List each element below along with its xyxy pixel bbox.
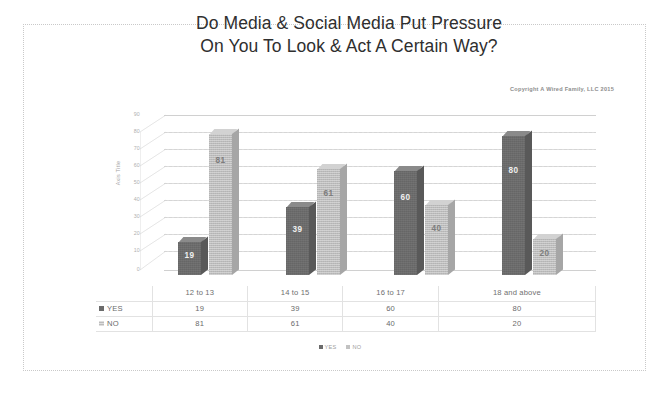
bar-side-face [340, 164, 347, 275]
table-cell-no-2: 40 [343, 316, 438, 331]
table-row-header-no: NO [96, 316, 152, 331]
legend-label-yes: YES [325, 344, 337, 350]
table-row: YES 19 39 60 80 [96, 301, 596, 316]
y-tick-30: 30 [114, 214, 140, 219]
chart-title-line-1: Do Media & Social Media Put Pressure [196, 13, 502, 33]
chart-title: Do Media & Social Media Put Pressure On … [0, 12, 670, 58]
table-col-header-0: 12 to 13 [152, 286, 247, 301]
bar-value-label: 60 [394, 193, 417, 202]
y-axis-tick-labels: 90 80 70 60 50 40 30 20 10 0 [114, 103, 140, 289]
bar-value-label: 61 [317, 189, 340, 198]
bar-front-face [286, 207, 309, 275]
bar-side-face [556, 234, 563, 275]
bar-side-face [201, 237, 208, 275]
legend-label-no: NO [352, 344, 361, 350]
table-row-label: YES [107, 304, 123, 313]
table-header-row: 12 to 13 14 to 15 16 to 17 18 and above [96, 286, 596, 301]
bar-side-face [232, 129, 239, 275]
bar-no-18-and-above[interactable]: 20 [533, 239, 556, 275]
y-tick-10: 10 [114, 248, 140, 253]
table-row-label: NO [107, 319, 119, 328]
legend-item-yes[interactable]: YES [319, 344, 337, 350]
table-cell-no-0: 81 [152, 316, 247, 331]
bar-value-label: 40 [425, 224, 448, 233]
bar-yes-16-to-17[interactable]: 60 [394, 171, 417, 275]
table-row: NO 81 61 40 20 [96, 316, 596, 331]
table-col-header-3: 18 and above [438, 286, 595, 301]
table-row-header-yes: YES [96, 301, 152, 316]
bar-group-12-to-13: 19 81 [178, 115, 283, 275]
copyright-notice: Copyright A Wired Family, LLC 2015 [510, 86, 614, 92]
bar-no-16-to-17[interactable]: 40 [425, 205, 448, 275]
chart-data-table: 12 to 13 14 to 15 16 to 17 18 and above … [96, 286, 596, 332]
bar-front-face [317, 169, 340, 275]
table-cell-no-1: 61 [247, 316, 342, 331]
y-tick-40: 40 [114, 197, 140, 202]
bar-front-face [394, 171, 417, 275]
legend-swatch-yes-icon [319, 345, 323, 349]
table-cell-yes-1: 39 [247, 301, 342, 316]
legend-item-no[interactable]: NO [346, 344, 361, 350]
y-tick-80: 80 [114, 129, 140, 134]
table-cell-yes-3: 80 [438, 301, 595, 316]
y-tick-70: 70 [114, 146, 140, 151]
legend-swatch-no-icon [346, 345, 350, 349]
bar-yes-14-to-15[interactable]: 39 [286, 207, 309, 275]
bar-group-18-and-above: 80 20 [502, 115, 607, 275]
y-tick-50: 50 [114, 180, 140, 185]
bar-no-12-to-13[interactable]: 81 [209, 134, 232, 275]
series-marker-yes-icon [99, 306, 104, 311]
chart-title-line-2: On You To Look & Act A Certain Way? [200, 36, 497, 56]
bar-side-face [309, 202, 316, 275]
chart-plot-region: Axis Title 90 80 70 60 50 40 30 20 10 0 [96, 103, 596, 289]
y-tick-60: 60 [114, 163, 140, 168]
chart-legend: YES NO [0, 344, 670, 350]
bar-yes-12-to-13[interactable]: 19 [178, 242, 201, 275]
bar-no-14-to-15[interactable]: 61 [317, 169, 340, 275]
bar-group-14-to-15: 39 61 [286, 115, 391, 275]
table-cell-yes-0: 19 [152, 301, 247, 316]
table-col-header-1: 14 to 15 [247, 286, 342, 301]
table-corner-cell [96, 286, 152, 301]
chart-bars-layer: 19 81 39 61 [164, 115, 596, 275]
bar-value-label: 20 [533, 249, 556, 258]
table-col-header-2: 16 to 17 [343, 286, 438, 301]
y-tick-20: 20 [114, 231, 140, 236]
bar-front-face [425, 205, 448, 275]
bar-front-face [502, 136, 525, 275]
bar-side-face [525, 131, 532, 275]
y-tick-90: 90 [114, 112, 140, 117]
table-cell-yes-2: 60 [343, 301, 438, 316]
bar-value-label: 39 [286, 225, 309, 234]
bar-value-label: 81 [209, 156, 232, 165]
series-marker-no-icon [99, 321, 104, 326]
bar-yes-18-and-above[interactable]: 80 [502, 136, 525, 275]
y-tick-0: 0 [114, 267, 140, 272]
bar-side-face [417, 166, 424, 275]
bar-value-label: 80 [502, 166, 525, 175]
bar-group-16-to-17: 60 40 [394, 115, 499, 275]
bar-value-label: 19 [178, 251, 201, 260]
bar-side-face [448, 200, 455, 275]
table-cell-no-3: 20 [438, 316, 595, 331]
